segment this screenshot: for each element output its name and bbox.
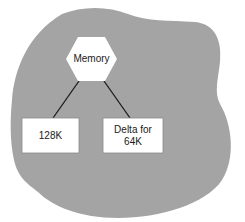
node-128k-label: 128K: [22, 118, 79, 153]
background-blob: [11, 8, 231, 218]
node-delta-64k-label: Delta for 64K: [103, 118, 163, 153]
memory-node-label: Memory: [66, 52, 117, 66]
diagram-canvas: [0, 0, 245, 222]
